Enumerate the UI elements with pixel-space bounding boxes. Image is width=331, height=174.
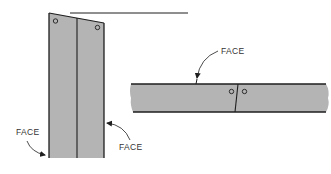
leader-arrow-face-right (107, 123, 130, 140)
horizontal-board-assembly (130, 84, 329, 112)
leader-arrow-face-left (27, 141, 45, 155)
diagram-canvas: FACE FACE FACE (0, 0, 331, 174)
vertical-board-right (77, 18, 104, 158)
vertical-board-left (49, 13, 77, 158)
horizontal-board (130, 84, 329, 112)
leader-arrow-face-top (197, 51, 218, 78)
label-face-left: FACE (16, 127, 39, 137)
label-face-top: FACE (221, 46, 244, 56)
leader-stem-face-top (196, 79, 197, 84)
vertical-board-assembly (49, 13, 104, 158)
label-face-right: FACE (119, 142, 142, 152)
lumber-face-diagram: FACE FACE FACE (0, 0, 331, 174)
